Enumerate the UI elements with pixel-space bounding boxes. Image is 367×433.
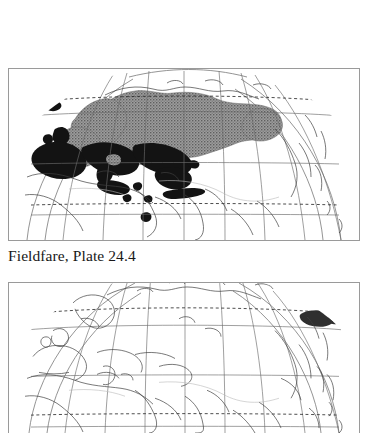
coastlines (25, 283, 342, 433)
map-bottom-canvas (9, 283, 359, 433)
figure-page: Fieldfare, Plate 24.4 (0, 0, 367, 433)
range-patch-northeast-asia (300, 310, 340, 326)
tropic-of-cancer-line (31, 204, 339, 206)
second-distribution-map (8, 282, 360, 433)
meridians (65, 283, 339, 433)
fieldfare-distribution-map (8, 68, 360, 241)
hydrology (69, 382, 279, 402)
figure-caption: Fieldfare, Plate 24.4 (8, 246, 348, 265)
map-top-canvas (9, 69, 359, 240)
